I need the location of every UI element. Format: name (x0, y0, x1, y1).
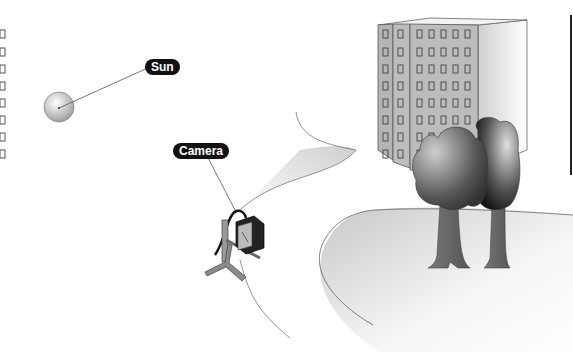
path-shading (236, 146, 356, 215)
camera-icon (205, 211, 264, 281)
path-edge-lower (240, 260, 290, 338)
scene-diagram (0, 0, 573, 352)
camera-label: Camera (173, 143, 229, 159)
edge-bar (570, 15, 572, 175)
sun-label: Sun (145, 59, 180, 75)
sun-icon (24, 72, 94, 141)
camera-leader-line (205, 152, 236, 212)
